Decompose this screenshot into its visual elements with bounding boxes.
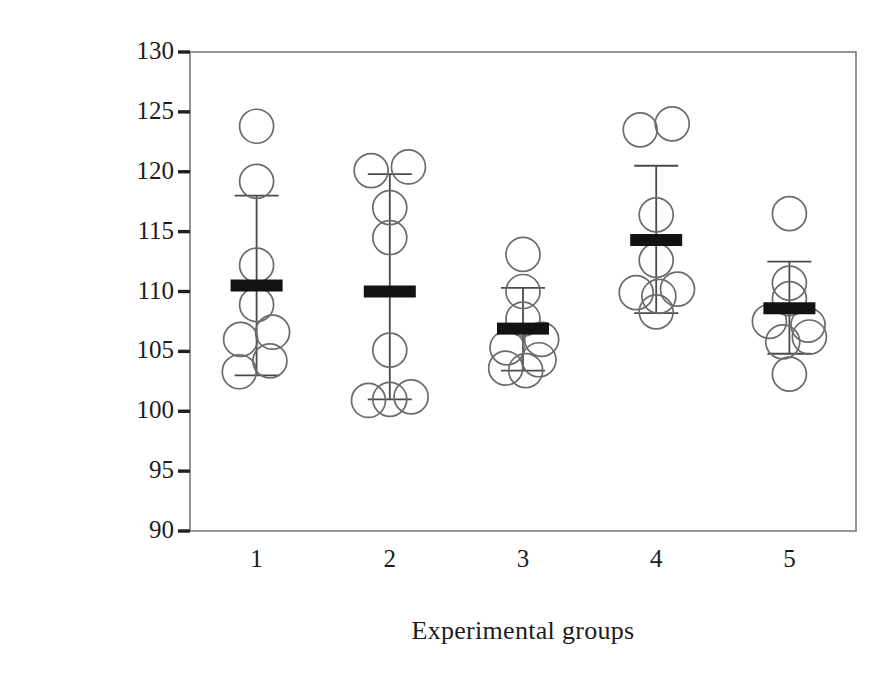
data-point-circle [655, 107, 689, 141]
data-point-circle [490, 331, 524, 365]
data-point-circle [506, 237, 540, 271]
data-point-circle [240, 164, 274, 198]
data-point-circle [772, 197, 806, 231]
data-point-circle [772, 357, 806, 391]
mean-bar [497, 323, 549, 335]
data-point-circle [222, 355, 256, 389]
data-point-circle [619, 276, 653, 310]
series-group-1 [222, 109, 289, 388]
series-group-4 [619, 107, 694, 329]
data-point-circle [623, 113, 657, 147]
data-point-circle [240, 109, 274, 143]
mean-bar [231, 280, 283, 292]
mean-bar [364, 286, 416, 298]
data-point-circle [351, 383, 385, 417]
chart-figure: Incubation time, days Experimental group… [0, 0, 887, 689]
series-group-5 [752, 197, 826, 391]
mean-bar [763, 302, 815, 314]
mean-bar [630, 234, 682, 246]
data-point-circle [224, 322, 258, 356]
data-point-circle [354, 154, 388, 188]
series-group-2 [351, 150, 428, 418]
data-point-circle [642, 279, 676, 313]
data-point-circle [391, 150, 425, 184]
series-group-3 [489, 237, 559, 387]
plot-area [0, 0, 887, 689]
data-point-circle [661, 272, 695, 306]
